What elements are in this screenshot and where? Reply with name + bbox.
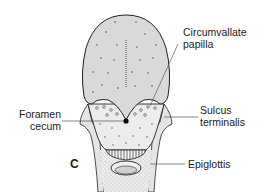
label-line: Sulcus — [200, 104, 245, 116]
label-epiglottis: Epiglottis — [188, 158, 231, 170]
label-line: Epiglottis — [188, 158, 231, 170]
foramen-cecum-dot — [123, 118, 128, 123]
label-line: Circumvallate — [183, 26, 247, 38]
label-line: terminalis — [200, 116, 245, 128]
tongue-diagram: Circumvallate papilla Foramen cecum Sulc… — [0, 0, 264, 192]
label-circumvallate-papilla: Circumvallate papilla — [183, 26, 247, 50]
label-line: cecum — [12, 120, 61, 132]
label-sulcus-terminalis: Sulcus terminalis — [200, 104, 245, 128]
label-line: Foramen — [12, 108, 61, 120]
epiglottis-shape — [111, 161, 141, 175]
label-foramen-cecum: Foramen cecum — [12, 108, 61, 132]
label-line: papilla — [183, 38, 247, 50]
panel-label: C — [70, 157, 79, 171]
